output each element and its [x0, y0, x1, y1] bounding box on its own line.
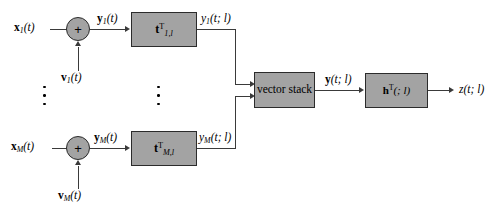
sum-output-label-branch-M: yM(t) [94, 132, 117, 144]
wire-junction-to-filter-branch-1 [90, 29, 125, 30]
wire-filter-output-branch-1 [197, 29, 236, 30]
wire-vectorstack-to-output-filter [315, 90, 360, 91]
output-filter-block: hT(; l) [365, 73, 428, 108]
input-signal-label-branch-1: x1(t) [14, 22, 35, 34]
filter-block-branch-M: tTM,l [131, 131, 197, 166]
vector-stack-block: vector stack [254, 72, 315, 108]
arrowhead-filter-input-branch-M [125, 145, 130, 151]
wire-noise-to-junction-branch-M [78, 166, 79, 189]
sum-output-label-branch-1: y1(t) [97, 13, 118, 25]
filter-block-label-branch-M: tTM,l [154, 142, 174, 154]
filter-block-label-branch-1: tT1,l [155, 23, 172, 35]
wire-output-filter-to-final [428, 90, 450, 91]
arrowhead-noise-junction-branch-M [75, 160, 81, 165]
ellipsis-input-column [43, 86, 46, 105]
signal-flow-diagram: x1(t) + v1(t) y1(t) tT1,l y1(t; l) [0, 0, 497, 217]
wire-noise-to-junction-branch-1 [78, 47, 79, 71]
filter-output-label-branch-M: yM(t; l) [199, 132, 231, 144]
wire-filter-output-branch-M [197, 148, 236, 149]
final-output-label: z(t; l) [459, 84, 484, 96]
wire-junction-to-filter-branch-M [90, 148, 125, 149]
vector-stack-output-label: y(t; l) [325, 74, 352, 86]
wire-vertical-up-branch-M [235, 96, 236, 148]
input-signal-label-branch-M: xM(t) [11, 141, 34, 153]
noise-signal-label-branch-M: vM(t) [58, 190, 81, 202]
arrowhead-final-output [449, 87, 454, 93]
wire-vertical-down-branch-1 [235, 29, 236, 85]
filter-block-branch-1: tT1,l [131, 12, 197, 47]
arrowhead-noise-junction-branch-1 [75, 41, 81, 46]
summing-junction-branch-1: + [66, 17, 90, 41]
noise-signal-label-branch-1: v1(t) [61, 72, 82, 84]
arrowhead-output-filter-input [359, 87, 364, 93]
summing-junction-branch-M: + [66, 136, 90, 160]
wire-into-vectorstack-branch-M [235, 96, 251, 97]
ellipsis-filter-column [157, 86, 160, 105]
filter-output-label-branch-1: y1(t; l) [201, 13, 231, 25]
wire-into-vectorstack-branch-1 [235, 84, 251, 85]
vector-stack-label: vector stack [257, 84, 312, 96]
output-filter-label: hT(; l) [383, 85, 410, 96]
arrowhead-filter-input-branch-1 [125, 26, 130, 32]
